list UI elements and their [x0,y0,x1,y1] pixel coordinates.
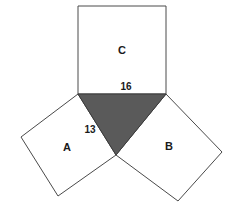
figure-canvas: C A B 16 13 [0,0,232,216]
hypotenuse-measure-label: 16 [120,81,132,92]
geometry-figure: C A B 16 13 [0,0,232,216]
square-c-label: C [118,44,126,56]
square-a-label: A [63,141,71,153]
square-b-label: B [165,140,173,152]
leg-left-measure-label: 13 [84,124,96,135]
